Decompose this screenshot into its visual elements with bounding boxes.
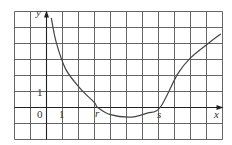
y-axis-label: y — [35, 6, 41, 18]
x-tick-label-1: 1 — [59, 108, 65, 120]
origin-label: 0 — [37, 108, 43, 120]
graph-figure: y x 0 1 1 r s — [0, 0, 232, 145]
axes — [15, 11, 224, 140]
x-axis-label: x — [213, 108, 219, 120]
root-label-s: s — [157, 108, 161, 120]
root-label-r: r — [95, 107, 100, 119]
grid-lines — [15, 12, 223, 140]
function-curve — [51, 18, 221, 117]
y-tick-label-1: 1 — [37, 86, 43, 98]
